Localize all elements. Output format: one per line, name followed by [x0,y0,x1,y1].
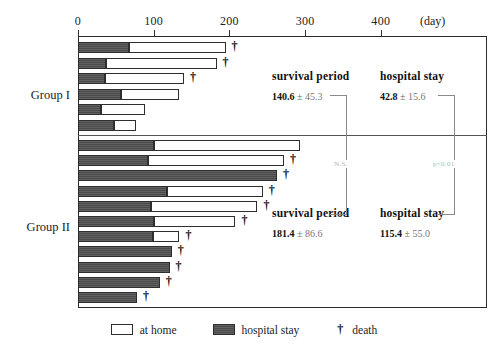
bar-row: † [78,292,137,303]
stats-group-i-survival-mean: 140.6 [272,91,295,102]
bar-row: † [78,246,172,257]
bar-row [78,140,300,151]
plus-minus-icon: ± [297,91,303,102]
legend-swatch-hospital-stay [213,324,235,335]
legend-label-at-home: at home [140,324,177,336]
stats-group-i-hospital-mean: 42.8 [380,91,398,102]
bar-segment-hospital-stay [78,89,121,100]
stats-group-i-hospital-sd: 15.6 [408,91,426,102]
bar-segment-hospital-stay [78,201,151,212]
plus-minus-icon: ± [404,228,410,239]
stats-group-i-survival-title: survival period [272,70,349,82]
plus-minus-icon: ± [400,91,406,102]
legend-item-death: † death [335,322,377,337]
stats-group-ii-hospital-sd: 55.0 [412,228,430,239]
death-marker-icon: † [232,41,238,52]
significance-bracket-hospital [438,95,455,215]
legend-label-hospital-stay: hospital stay [242,324,300,336]
bar-row [78,120,136,131]
bar-segment-hospital-stay [78,58,106,69]
death-marker-icon: † [178,245,184,256]
stats-group-ii-hospital-mean: 115.4 [380,228,402,239]
bar-segment-at-home [105,73,184,84]
legend-label-death: death [352,324,377,336]
bar-segment-at-home [106,58,217,69]
bar-row: † [78,155,284,166]
death-marker-icon: † [190,72,196,83]
bar-row: † [78,201,257,212]
bar-segment-hospital-stay [78,155,148,166]
x-axis-tick-label: 0 [75,14,81,29]
chart-root: 0100200300400 (day) ††††††††††††† Group … [0,0,488,353]
death-marker-icon: † [176,261,182,272]
dagger-icon: † [335,322,345,337]
bar-segment-at-home [114,120,137,131]
death-marker-icon: † [290,154,296,165]
group-label-group-i: Group I [8,88,70,103]
bar-row: † [78,73,184,84]
death-marker-icon: † [283,169,289,180]
bar-row: † [78,216,235,227]
bar-segment-at-home [153,231,179,242]
plus-minus-icon: ± [297,228,303,239]
bar-segment-at-home [154,140,300,151]
bar-segment-at-home [148,155,284,166]
legend-item-at-home: at home [111,324,177,336]
bar-segment-hospital-stay [78,292,137,303]
death-marker-icon: † [263,200,269,211]
stats-group-i-hospital: hospital stay 42.8 ± 15.6 [380,70,444,102]
stats-group-ii-hospital-value: 115.4 ± 55.0 [380,228,444,239]
stats-group-i-hospital-title: hospital stay [380,70,444,82]
stats-group-i-hospital-value: 42.8 ± 15.6 [380,91,444,102]
death-marker-icon: † [143,291,149,302]
bar-segment-hospital-stay [78,170,277,181]
bar-row [78,104,145,115]
legend-swatch-at-home [111,324,133,335]
x-axis-tick-label: 100 [144,14,163,29]
x-axis-tick-label: 300 [296,14,315,29]
death-marker-icon: † [269,185,275,196]
bar-segment-at-home [121,89,179,100]
bar-segment-at-home [167,186,262,197]
bar-row [78,89,179,100]
death-marker-icon: † [166,276,172,287]
bar-row: † [78,42,226,53]
bar-segment-hospital-stay [78,120,114,131]
bar-row: † [78,186,263,197]
bar-row: † [78,170,277,181]
group-separator-line [78,135,487,136]
bar-segment-at-home [154,216,236,227]
significance-label-survival: N.S. [333,160,349,168]
stats-group-ii-survival-mean: 181.4 [272,228,295,239]
bar-segment-at-home [129,42,226,53]
bar-segment-hospital-stay [78,246,172,257]
bar-segment-hospital-stay [78,277,160,288]
stats-group-ii-hospital: hospital stay 115.4 ± 55.0 [380,207,444,239]
bar-row: † [78,262,170,273]
stats-group-ii-survival-sd: 86.6 [305,228,323,239]
bar-row: † [78,231,179,242]
bar-segment-hospital-stay [78,104,101,115]
significance-bracket-survival [330,95,347,215]
bar-segment-hospital-stay [78,216,154,227]
death-marker-icon: † [185,230,191,241]
x-axis-unit-label: (day) [420,14,445,29]
stats-group-ii-hospital-title: hospital stay [380,207,444,219]
chart-legend: at home hospital stay † death [0,322,488,337]
bar-segment-at-home [151,201,257,212]
bar-segment-hospital-stay [78,42,129,53]
bar-segment-hospital-stay [78,140,154,151]
death-marker-icon: † [223,57,229,68]
group-label-group-ii: Group II [8,220,70,235]
bar-segment-hospital-stay [78,73,105,84]
bar-row: † [78,277,160,288]
death-marker-icon: † [241,215,247,226]
bar-row: † [78,58,217,69]
bar-segment-hospital-stay [78,262,170,273]
significance-label-hospital: p<0.01 [432,160,456,168]
x-axis-tick-label: 200 [220,14,239,29]
legend-item-hospital-stay: hospital stay [213,324,300,336]
stats-group-i-survival-sd: 45.3 [305,91,323,102]
stats-group-ii-survival-value: 181.4 ± 86.6 [272,228,349,239]
x-axis-tick-label: 400 [371,14,390,29]
